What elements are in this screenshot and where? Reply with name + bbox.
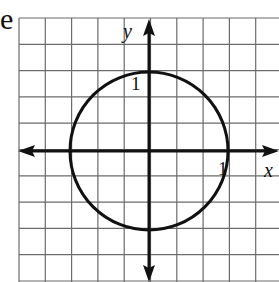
unit-circle-figure: e y x 1 1 bbox=[0, 0, 279, 282]
x-axis-label: x bbox=[264, 160, 273, 180]
x-tick-label-one: 1 bbox=[218, 159, 228, 178]
y-tick-label-one: 1 bbox=[131, 74, 141, 93]
fragment-text: e bbox=[0, 4, 13, 34]
y-axis-label: y bbox=[123, 21, 132, 41]
coordinate-plane bbox=[0, 0, 279, 282]
